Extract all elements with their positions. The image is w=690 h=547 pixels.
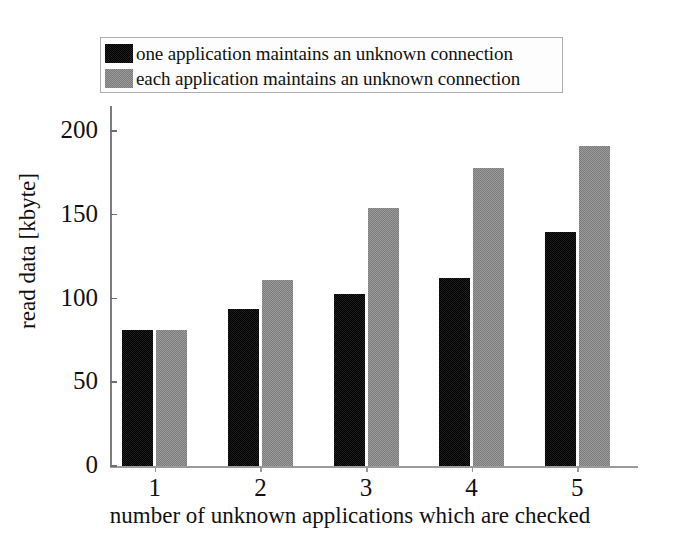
bar-4-series1 — [439, 278, 470, 466]
bar-1-series1 — [122, 330, 153, 466]
legend-swatch-light-icon — [105, 69, 133, 88]
bar-3-series1 — [334, 294, 365, 466]
x-tick-label-5: 5 — [557, 474, 597, 502]
x-tick-label-3: 3 — [346, 474, 386, 502]
plot-area — [110, 106, 638, 466]
y-tick-label: 0 — [30, 452, 98, 477]
legend-item-one-application: one application maintains an unknown con… — [105, 41, 562, 66]
x-tick-label-2: 2 — [240, 474, 280, 502]
bar-5-series1 — [545, 232, 576, 466]
bar-1-series2 — [156, 330, 187, 466]
x-tick-label-4: 4 — [452, 474, 492, 502]
y-tick-label: 50 — [30, 368, 98, 393]
x-tick-mark-2 — [260, 466, 262, 472]
bar-2-series2 — [262, 280, 293, 466]
bar-2-series1 — [228, 309, 259, 466]
x-tick-mark-4 — [472, 466, 474, 472]
x-axis-line — [110, 466, 638, 468]
legend-item-each-application: each application maintains an unknown co… — [105, 66, 562, 91]
y-axis-label: read data [kbyte] — [15, 131, 41, 371]
bar-4-series2 — [473, 168, 504, 466]
bar-5-series2 — [579, 146, 610, 466]
chart-legend: one application maintains an unknown con… — [100, 37, 563, 93]
x-tick-mark-1 — [155, 466, 157, 472]
legend-swatch-dark-icon — [105, 44, 133, 63]
x-tick-label-1: 1 — [135, 474, 175, 502]
legend-label-one-application: one application maintains an unknown con… — [136, 44, 513, 63]
x-tick-mark-5 — [577, 466, 579, 472]
x-tick-mark-3 — [366, 466, 368, 472]
x-axis-label: number of unknown applications which are… — [60, 503, 640, 529]
bar-chart: one application maintains an unknown con… — [0, 0, 690, 547]
bar-3-series2 — [368, 208, 399, 466]
legend-label-each-application: each application maintains an unknown co… — [136, 69, 520, 88]
